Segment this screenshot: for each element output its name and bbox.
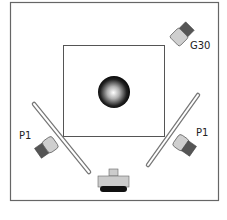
camera-body-icon bbox=[98, 176, 129, 187]
label-p1-left: P1 bbox=[19, 130, 31, 141]
camera-base-icon bbox=[100, 186, 127, 192]
camera-viewfinder-icon bbox=[109, 169, 118, 176]
lighting-diagram: G30 P1 P1 bbox=[0, 0, 227, 220]
label-g30: G30 bbox=[190, 40, 210, 51]
subject-sphere bbox=[98, 76, 130, 108]
label-p1-right: P1 bbox=[196, 127, 208, 138]
